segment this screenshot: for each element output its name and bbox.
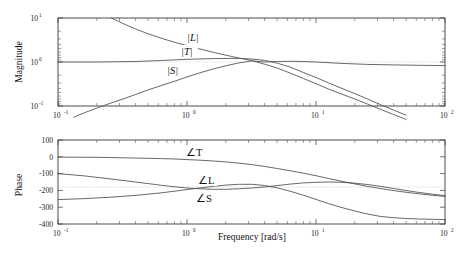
phase-y-ticks bbox=[58, 140, 445, 224]
magnitude-xticklabel-2-exp: 1 bbox=[322, 109, 325, 115]
phase-yticklabel-3: -200 bbox=[39, 186, 53, 195]
phase-xticklabel-3: 10 bbox=[440, 229, 448, 238]
phase-label-angle-L-text: ∠L bbox=[198, 175, 214, 186]
phase-xticklabel-0-exp: -1 bbox=[64, 227, 69, 233]
phase-axes-frame bbox=[58, 140, 445, 224]
magnitude-subplot: |L| |T| |S| 10 1 10 0 10 -1 10 bbox=[13, 12, 454, 120]
frequency-axis-title: Frequency [rad/s] bbox=[218, 231, 286, 242]
phase-yticklabel-0: 100 bbox=[42, 136, 54, 145]
phase-annotation-S: ∠S bbox=[194, 192, 215, 204]
magnitude-xticklabel-1: 10 bbox=[182, 111, 190, 120]
phase-annotation-L: ∠L bbox=[196, 174, 217, 186]
magnitude-xticklabel-0-exp: -1 bbox=[64, 109, 69, 115]
magnitude-yticklabel-2-exp: 1 bbox=[39, 12, 42, 18]
magnitude-yticklabel-1-exp: 0 bbox=[39, 56, 42, 62]
magnitude-label-L-text: |L| bbox=[187, 32, 199, 43]
magnitude-yticklabel-1: 10 bbox=[30, 58, 38, 67]
phase-yticklabel-2: -100 bbox=[39, 169, 53, 178]
magnitude-yticklabel-0-exp: -1 bbox=[39, 100, 44, 106]
magnitude-xticklabel-2: 10 bbox=[311, 111, 319, 120]
phase-x-ticks bbox=[58, 140, 445, 224]
magnitude-xticklabel-0: 10 bbox=[53, 111, 61, 120]
phase-xticklabel-1-exp: 0 bbox=[193, 227, 196, 233]
phase-subplot: ∠T ∠L ∠S 100 0 -100 -200 -300 -400 10 bbox=[13, 136, 454, 242]
curve-magnitude-S bbox=[74, 61, 445, 117]
curve-magnitude-T bbox=[58, 58, 406, 115]
magnitude-axis-title: Magnitude bbox=[13, 41, 24, 83]
magnitude-label-T-text: |T| bbox=[181, 46, 193, 57]
magnitude-annotation-T: |T| bbox=[179, 45, 198, 57]
phase-label-angle-S-text: ∠S bbox=[196, 193, 212, 204]
curve-phase-T bbox=[58, 157, 445, 196]
phase-axis-title: Phase bbox=[13, 174, 24, 196]
phase-yticklabel-1: 0 bbox=[49, 153, 53, 162]
phase-x-minor-ticks bbox=[97, 140, 439, 224]
magnitude-y-ticklabels: 10 1 10 0 10 -1 bbox=[30, 12, 43, 111]
phase-y-ticklabels: 100 0 -100 -200 -300 -400 bbox=[39, 136, 53, 229]
bode-plot-figure: |L| |T| |S| 10 1 10 0 10 -1 10 bbox=[0, 0, 470, 257]
magnitude-xticklabel-3-exp: 2 bbox=[451, 109, 454, 115]
phase-xticklabel-0: 10 bbox=[53, 229, 61, 238]
magnitude-xticklabel-1-exp: 0 bbox=[193, 109, 196, 115]
plot-canvas: |L| |T| |S| 10 1 10 0 10 -1 10 bbox=[0, 0, 470, 257]
magnitude-xticklabel-3: 10 bbox=[440, 111, 448, 120]
magnitude-annotation-S: |S| bbox=[165, 64, 184, 76]
magnitude-yticklabel-0: 10 bbox=[30, 102, 38, 111]
phase-xticklabel-2-exp: 1 bbox=[322, 227, 325, 233]
magnitude-y-minor-ticks bbox=[58, 31, 445, 104]
phase-xticklabel-1: 10 bbox=[182, 229, 190, 238]
phase-yticklabel-4: -300 bbox=[39, 203, 53, 212]
phase-annotation-T: ∠T bbox=[184, 146, 205, 158]
magnitude-label-S-text: |S| bbox=[167, 65, 178, 76]
magnitude-yticklabel-2: 10 bbox=[30, 14, 38, 23]
phase-yticklabel-5: -400 bbox=[39, 220, 53, 229]
phase-xticklabel-2: 10 bbox=[311, 229, 319, 238]
magnitude-annotation-L: |L| bbox=[185, 31, 204, 43]
phase-xticklabel-3-exp: 2 bbox=[451, 227, 454, 233]
phase-label-angle-T-text: ∠T bbox=[186, 147, 203, 158]
curve-magnitude-L bbox=[111, 18, 406, 119]
